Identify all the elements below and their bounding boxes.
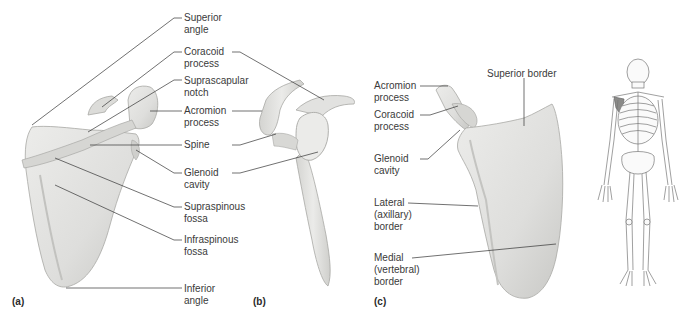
label-glenoid-cavity-a: Glenoid cavity (184, 167, 218, 191)
label-line: Suprascapular (184, 75, 248, 87)
label-line: Superior border (487, 68, 556, 80)
label-line: border (374, 221, 412, 233)
label-line: Medial (374, 252, 420, 264)
panel-tag-a: (a) (12, 296, 24, 307)
panel-tag-b: (b) (253, 296, 266, 307)
label-glenoid-cavity-c: Glenoid cavity (374, 153, 408, 177)
scapula-lateral-view (259, 80, 354, 286)
panel-tag-c: (c) (374, 296, 386, 307)
label-line: Infraspinous (184, 234, 238, 246)
label-line: cavity (374, 165, 408, 177)
scapula-anterior-view (436, 85, 563, 298)
label-line: Coracoid (374, 109, 414, 121)
label-acromion-process-c: Acromion process (374, 80, 416, 104)
label-line: Glenoid (374, 153, 408, 165)
scapula-illustration (0, 0, 694, 322)
label-acromion-process-a: Acromion process (184, 105, 226, 129)
label-line: Lateral (374, 197, 412, 209)
label-line: (axillary) (374, 209, 412, 221)
label-line: process (184, 117, 226, 129)
label-line: fossa (184, 213, 245, 225)
full-skeleton-inset (598, 59, 678, 286)
scapula-posterior-view (22, 86, 158, 287)
label-line: process (374, 121, 414, 133)
label-line: Acromion (374, 80, 416, 92)
label-superior-angle: Superior angle (184, 12, 222, 36)
label-line: Superior (184, 12, 222, 24)
label-infraspinous-fossa: Infraspinous fossa (184, 234, 238, 258)
label-inferior-angle: Inferior angle (184, 283, 215, 307)
label-line: cavity (184, 179, 218, 191)
label-line: angle (184, 24, 222, 36)
label-superior-border: Superior border (487, 68, 556, 80)
label-line: angle (184, 295, 215, 307)
label-line: fossa (184, 246, 238, 258)
label-medial-border: Medial (vertebral) border (374, 252, 420, 288)
label-coracoid-process-c: Coracoid process (374, 109, 414, 133)
label-line: Acromion (184, 105, 226, 117)
label-line: border (374, 276, 420, 288)
label-line: notch (184, 87, 248, 99)
label-line: (vertebral) (374, 264, 420, 276)
label-line: Coracoid (184, 46, 224, 58)
label-line: Inferior (184, 283, 215, 295)
label-suprascapular-notch: Suprascapular notch (184, 75, 248, 99)
label-line: Glenoid (184, 167, 218, 179)
label-coracoid-process-a: Coracoid process (184, 46, 224, 70)
label-line: process (374, 92, 416, 104)
label-line: Spine (184, 139, 210, 151)
label-spine: Spine (184, 139, 210, 151)
label-lateral-border: Lateral (axillary) border (374, 197, 412, 233)
label-supraspinous-fossa: Supraspinous fossa (184, 201, 245, 225)
label-line: Supraspinous (184, 201, 245, 213)
label-line: process (184, 58, 224, 70)
